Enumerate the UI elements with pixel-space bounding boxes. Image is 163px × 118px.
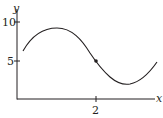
y-tick-label-10: 10 [2, 16, 16, 29]
function-graph: y x 10 5 2 [0, 0, 163, 118]
marked-point [94, 59, 98, 63]
function-curve [23, 28, 157, 84]
x-axis-label: x [156, 92, 163, 105]
y-tick-label-5: 5 [7, 55, 14, 68]
y-axis-label: y [12, 2, 20, 15]
x-tick-label-2: 2 [92, 104, 99, 117]
